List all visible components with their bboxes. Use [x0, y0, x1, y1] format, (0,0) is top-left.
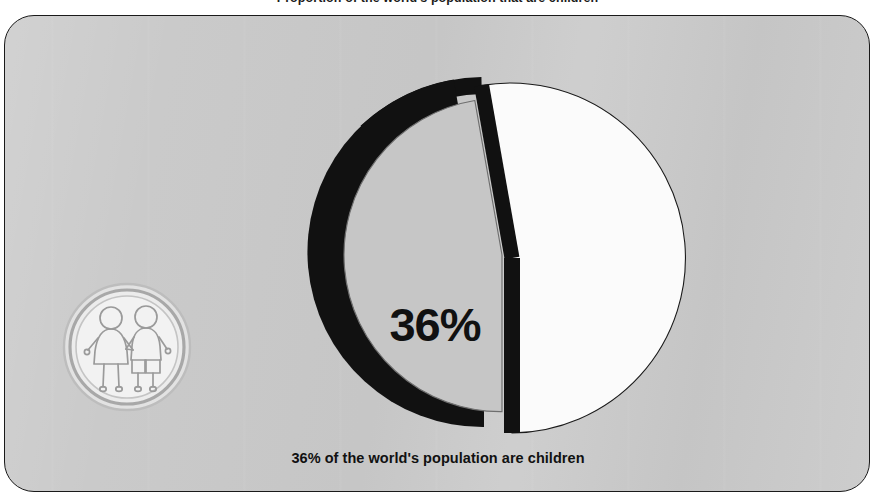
pie-slice-children-group [307, 79, 502, 427]
chart-caption: 36% of the world's population are childr… [5, 450, 870, 466]
slice-value-label: 36% [377, 301, 493, 348]
pie-chart [267, 68, 729, 448]
page-title: Proportion of the world's population tha… [0, 0, 875, 13]
two-children-holding-hands-icon [61, 281, 193, 413]
infographic-panel: 36% 36% of the world's population are ch… [4, 15, 870, 492]
